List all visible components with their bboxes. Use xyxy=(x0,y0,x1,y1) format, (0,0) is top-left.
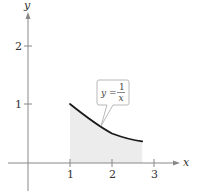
x-axis-arrow-icon xyxy=(173,161,180,166)
x-tick-label-1: 1 xyxy=(67,168,74,181)
y-tick-label-1: 1 xyxy=(15,98,22,111)
x-tick-label-2: 2 xyxy=(109,168,116,181)
y-axis-label: y xyxy=(23,0,31,12)
chart-svg: 1 2 3 1 2 x y y = 1 x xyxy=(0,0,198,196)
callout-lhs: y = xyxy=(100,88,117,98)
x-axis-label: x xyxy=(183,156,190,169)
callout-denominator: x xyxy=(119,93,124,103)
y-tick-label-2: 2 xyxy=(15,40,22,53)
callout-numerator: 1 xyxy=(119,82,125,92)
x-tick-label-3: 3 xyxy=(151,168,158,181)
y-axis-arrow-icon xyxy=(26,12,31,19)
